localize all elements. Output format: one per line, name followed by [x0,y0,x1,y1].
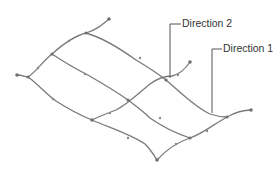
surface-drawing [0,0,280,176]
node-dot [15,73,19,77]
intersection-dot [225,115,228,118]
curve-tick [109,112,111,114]
direction1-curve-right [86,33,227,117]
node-dot [249,108,253,112]
node-dot [188,60,192,64]
direction2-curve-front [157,110,251,160]
curve-tick [84,73,86,75]
direction1-curve-center [52,54,190,138]
intersection-dot [164,78,167,81]
intersection-dot [126,98,129,101]
intersection-dot [188,136,191,139]
intersection-dot [84,31,87,34]
curve-tick [127,137,129,139]
curve-tick [177,74,179,76]
curve-tick [206,130,208,132]
direction1-label: Direction 1 [223,43,273,54]
intersection-dot [26,75,29,78]
curve-tick [37,67,39,69]
curve-tick [139,57,141,59]
direction2-curve-back [17,19,109,77]
surface-diagram: Direction 2 Direction 1 [0,0,280,176]
curve-tick [175,143,177,145]
node-dot [107,17,111,21]
node-dot [90,118,94,122]
curve-tick [52,98,54,100]
intersection-dot [50,52,53,55]
curve-tick [159,117,161,119]
direction2-curve-middle [92,62,190,120]
direction1-leader-line [212,49,222,113]
curve-tick [68,40,70,42]
direction2-leader-line [170,24,181,78]
direction2-label: Direction 2 [182,18,232,29]
node-dot [155,158,159,162]
